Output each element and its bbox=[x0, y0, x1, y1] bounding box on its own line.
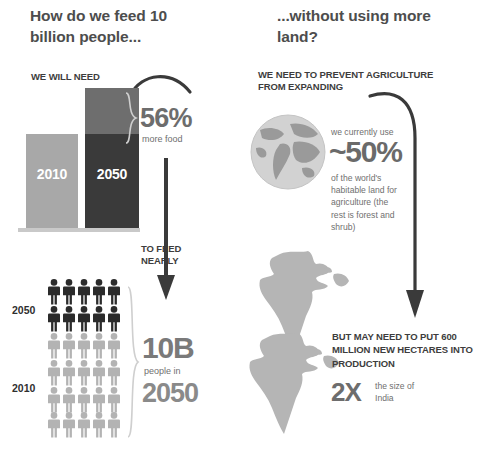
brace-pictogram bbox=[126, 286, 140, 438]
callout-2x: 2X bbox=[331, 379, 361, 405]
down-arrow-to-feed bbox=[155, 158, 179, 318]
people-row-2050-1 bbox=[48, 279, 120, 305]
callout-more-food: more food bbox=[142, 134, 183, 145]
bar-2010-label: 2010 bbox=[26, 166, 78, 182]
callout-people-in: people in bbox=[144, 366, 181, 377]
people-row-2010-1 bbox=[48, 333, 120, 359]
people-row-2050-2 bbox=[48, 306, 120, 332]
people-pictogram bbox=[48, 279, 128, 439]
people-row-2010-2 bbox=[48, 360, 120, 386]
people-row-2010-4 bbox=[48, 412, 120, 438]
pictogram-label-2050: 2050 bbox=[12, 304, 35, 316]
bottom-kicker: BUT MAY NEED TO PUT 600 MILLION NEW HECT… bbox=[332, 330, 484, 370]
brace-bar-growth bbox=[124, 92, 138, 144]
pictogram-label-2010: 2010 bbox=[12, 382, 35, 394]
left-headline: How do we feed 10 billion people... bbox=[30, 6, 200, 48]
globe-detail-text: of the world's habitable land for agricu… bbox=[331, 172, 403, 233]
callout-56-percent: 56% bbox=[140, 105, 192, 132]
bar-chart-baseline bbox=[18, 228, 140, 232]
right-headline: ...without using more land? bbox=[277, 6, 452, 48]
people-row-2010-3 bbox=[48, 387, 120, 413]
people-grid bbox=[48, 279, 128, 439]
bar-2050-label: 2050 bbox=[85, 166, 139, 182]
callout-10b: 10B bbox=[142, 333, 193, 362]
globe-icon bbox=[250, 114, 326, 190]
callout-year-2050: 2050 bbox=[142, 380, 198, 407]
callout-50-percent: ~50% bbox=[329, 137, 402, 167]
infographic-canvas: How do we feed 10 billion people... WE W… bbox=[0, 0, 490, 461]
bar-2010: 2010 bbox=[26, 134, 78, 228]
callout-2x-caption: the size ofIndia bbox=[375, 380, 435, 404]
